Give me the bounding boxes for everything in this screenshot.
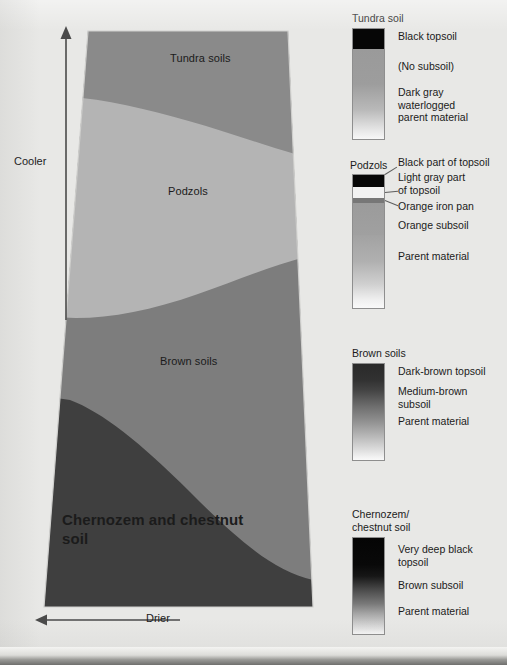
swatch-layer-parent-material bbox=[353, 235, 384, 309]
swatch-layer-light-gray-part-of-topsoil bbox=[353, 187, 384, 198]
swatch-layer-chernozem-parent-material bbox=[353, 604, 384, 635]
legend-brown-soils-swatch bbox=[352, 363, 385, 461]
legend-chernozem-swatch bbox=[352, 537, 385, 635]
swatch-layer-dark-brown-topsoil bbox=[353, 364, 384, 390]
swatch-layer-gray-waterlogged-parent-material bbox=[353, 49, 384, 140]
legend-chernozem-title: Chernozem/ chestnut soil bbox=[352, 508, 504, 534]
legend-brown-soils: Brown soils Dark-brown topsoil Medium-br… bbox=[352, 347, 504, 467]
leader-line-iron-pan bbox=[385, 200, 398, 206]
legend-tundra-item-parent-material: Dark gray waterlogged parent material bbox=[398, 86, 468, 124]
band-label-chernozem: Chernozem and chestnut soil bbox=[62, 510, 252, 548]
legend-brown-soils-item-subsoil: Medium-brown subsoil bbox=[398, 385, 467, 410]
band-label-brown-soils: Brown soils bbox=[160, 355, 217, 367]
legend-brown-soils-title: Brown soils bbox=[352, 347, 504, 360]
swatch-layer-brown-subsoil bbox=[353, 576, 384, 604]
legend-tundra-title: Tundra soil bbox=[352, 12, 504, 25]
legend-chernozem: Chernozem/ chestnut soil Very deep black… bbox=[352, 508, 504, 641]
legend-podzols-item-iron-pan: Orange iron pan bbox=[398, 200, 474, 213]
legend-podzols-swatch bbox=[352, 174, 385, 309]
swatch-layer-black-topsoil bbox=[353, 29, 384, 49]
swatch-layer-very-deep-black-topsoil bbox=[353, 538, 384, 576]
legend-brown-soils-item-topsoil: Dark-brown topsoil bbox=[398, 365, 486, 378]
legend-tundra-swatch bbox=[352, 28, 385, 140]
legend-podzols-item-black-part: Black part of topsoil bbox=[398, 156, 490, 169]
cooler-axis-label: Cooler bbox=[14, 155, 46, 167]
band-label-podzols: Podzols bbox=[168, 185, 208, 197]
legend-tundra-item-black-topsoil: Black topsoil bbox=[398, 30, 457, 43]
page-bottom-edge bbox=[0, 647, 507, 665]
legend-chernozem-item-parent-material: Parent material bbox=[398, 605, 469, 618]
legend-chernozem-item-topsoil: Very deep black topsoil bbox=[398, 543, 473, 568]
legend-podzols-title: Podzols bbox=[350, 159, 387, 171]
legend-podzols-item-light-gray-part: Light gray part of topsoil bbox=[398, 171, 465, 196]
legend-podzols-item-parent-material: Parent material bbox=[398, 250, 469, 263]
legend-brown-soils-item-parent-material: Parent material bbox=[398, 415, 469, 428]
drier-axis-label: Drier bbox=[146, 612, 170, 624]
swatch-layer-black-part-of-topsoil bbox=[353, 175, 384, 187]
swatch-layer-medium-brown-subsoil bbox=[353, 390, 384, 420]
swatch-layer-orange-subsoil bbox=[353, 203, 384, 235]
legend-tundra-item-no-subsoil: (No subsoil) bbox=[398, 60, 454, 73]
cooler-axis-arrow bbox=[56, 24, 76, 324]
figure-page: Tundra soils Podzols Brown soils Chernoz… bbox=[0, 0, 507, 665]
legend-podzols-item-orange-subsoil: Orange subsoil bbox=[398, 219, 469, 232]
legend-podzols: Podzols Black part of topsoil Light gray… bbox=[352, 160, 504, 306]
swatch-layer-brown-parent-material bbox=[353, 420, 384, 461]
leader-line-light-gray-part bbox=[385, 191, 398, 193]
legend-tundra: Tundra soil Black topsoil (No subsoil) D… bbox=[352, 12, 504, 146]
band-label-tundra-soils: Tundra soils bbox=[170, 52, 231, 64]
legend-chernozem-item-brown-subsoil: Brown subsoil bbox=[398, 579, 463, 592]
